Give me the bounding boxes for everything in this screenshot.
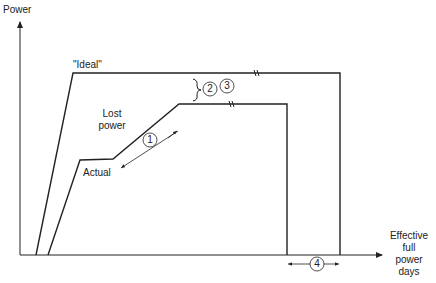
diagram: Power "Ideal" Lost power Actual Effectiv… bbox=[0, 0, 436, 283]
ideal-label: "Ideal" bbox=[73, 59, 102, 71]
x-axis-label: Effective full power days bbox=[382, 230, 436, 278]
ideal-curve bbox=[36, 73, 340, 255]
actual-curve bbox=[48, 104, 287, 255]
brace-icon bbox=[193, 79, 201, 101]
marker-3: 3 bbox=[220, 80, 234, 92]
lost-power-label: Lost power bbox=[92, 108, 132, 132]
marker-1: 1 bbox=[143, 134, 157, 146]
axes bbox=[20, 22, 382, 255]
marker-2: 2 bbox=[203, 83, 217, 95]
actual-label: Actual bbox=[83, 167, 111, 179]
y-axis-label: Power bbox=[3, 4, 31, 16]
diagram-graphics bbox=[0, 0, 436, 283]
marker-4: 4 bbox=[310, 258, 324, 270]
